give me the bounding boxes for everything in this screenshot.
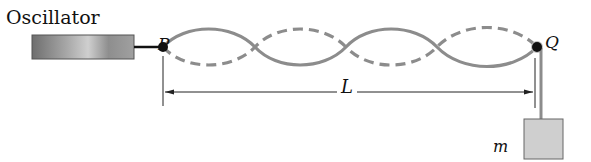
arrow-left-icon [165,90,174,95]
wave-solid [163,29,537,67]
point-q-dot [532,42,542,52]
length-label: L [337,76,357,97]
oscillator-box [32,35,134,59]
point-p-label: P [158,34,169,54]
point-q-label: Q [545,32,559,52]
wave-dashed [163,28,537,66]
oscillator-label: Oscillator [6,6,100,28]
hanging-mass [524,119,563,159]
mass-label: m [493,137,508,156]
standing-wave-diagram: Oscillator P Q L m [0,0,591,162]
arrow-right-icon [524,90,533,95]
